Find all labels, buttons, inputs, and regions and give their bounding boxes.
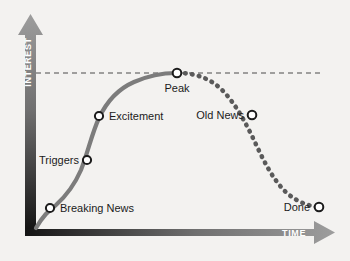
marker-done[interactable] xyxy=(315,203,324,212)
marker-triggers[interactable] xyxy=(83,156,91,164)
marker-breaking-news[interactable] xyxy=(46,204,54,212)
chart-canvas: INTEREST TIME Breaking News Triggers Exc… xyxy=(0,0,350,261)
label-breaking-news: Breaking News xyxy=(60,202,134,214)
y-axis-label: INTEREST xyxy=(23,37,33,86)
x-axis-label: TIME xyxy=(282,228,306,238)
hype-cycle-chart: INTEREST TIME Breaking News Triggers Exc… xyxy=(0,0,350,261)
marker-peak[interactable] xyxy=(173,69,182,78)
label-triggers: Triggers xyxy=(39,154,79,166)
marker-old-news[interactable] xyxy=(248,111,257,120)
y-axis: INTEREST xyxy=(18,14,43,229)
label-done: Done xyxy=(284,201,310,213)
label-peak: Peak xyxy=(164,82,190,94)
x-axis: TIME xyxy=(25,221,335,244)
marker-excitement[interactable] xyxy=(95,112,103,120)
decline-curve-dotted xyxy=(178,73,317,207)
label-old-news: Old News xyxy=(196,109,244,121)
label-excitement: Excitement xyxy=(109,110,163,122)
